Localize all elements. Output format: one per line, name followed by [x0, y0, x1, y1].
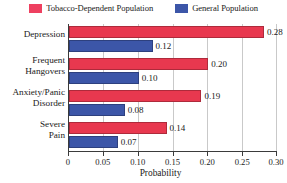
- bar-value-anxiety-general: 0.08: [125, 105, 144, 115]
- x-tick-mark-030: [276, 152, 277, 156]
- bar-hangovers-general[interactable]: [69, 72, 139, 84]
- legend-entry-tobacco-dependent: Tobacco-Dependent Population: [29, 4, 153, 13]
- chart-plot-area: 0.28 0.12 0.20 0.10 0.19 0.08 0.: [68, 24, 277, 152]
- bar-value-depression-tobacco: 0.28: [264, 27, 283, 37]
- x-tick-mark-020: [207, 152, 208, 156]
- legend-swatch-blue: [175, 4, 188, 13]
- category-label-anxiety-panic-disorder: Anxiety/Panic Disorder: [0, 87, 65, 108]
- bar-value-severe-pain-general: 0.07: [118, 137, 137, 147]
- bar-value-depression-general: 0.12: [153, 41, 172, 51]
- x-tick-label-010: 0.10: [130, 157, 145, 167]
- bar-value-anxiety-tobacco: 0.19: [201, 91, 220, 101]
- category-label-depression: Depression: [0, 29, 65, 40]
- chart-legend: Tobacco-Dependent Population General Pop…: [0, 1, 287, 15]
- x-axis-title: Probability: [140, 168, 182, 179]
- x-tick-label-0: 0: [66, 157, 70, 167]
- bar-group-depression: 0.28 0.12: [69, 24, 277, 56]
- bar-hangovers-tobacco[interactable]: [69, 58, 208, 70]
- x-tick-mark-005: [103, 152, 104, 156]
- y-axis-line: [68, 24, 69, 152]
- x-tick-mark-010: [138, 152, 139, 156]
- bar-value-severe-pain-tobacco: 0.14: [167, 123, 186, 133]
- x-tick-label-025: 0.25: [235, 157, 250, 167]
- category-label-severe-pain: Severe Pain: [0, 119, 65, 140]
- bar-severe-pain-general[interactable]: [69, 136, 118, 148]
- bar-group-severe-pain: 0.14 0.07: [69, 120, 277, 152]
- x-axis-title-wrapper: Probability: [0, 168, 287, 179]
- bar-group-frequent-hangovers: 0.20 0.10: [69, 56, 277, 88]
- x-tick-mark-015: [173, 152, 174, 156]
- bar-depression-general[interactable]: [69, 40, 153, 52]
- legend-entry-general-population: General Population: [175, 4, 258, 13]
- x-tick-label-015: 0.15: [165, 157, 180, 167]
- bar-severe-pain-tobacco[interactable]: [69, 122, 167, 134]
- bar-group-anxiety-panic-disorder: 0.19 0.08: [69, 88, 277, 120]
- x-tick-label-020: 0.20: [200, 157, 215, 167]
- bar-value-hangovers-general: 0.10: [139, 73, 158, 83]
- bar-anxiety-general[interactable]: [69, 104, 125, 116]
- bar-depression-tobacco[interactable]: [69, 26, 264, 38]
- x-tick-mark-025: [242, 152, 243, 156]
- x-tick-mark-0: [68, 152, 69, 156]
- legend-swatch-red: [29, 4, 42, 13]
- bar-value-hangovers-tobacco: 0.20: [208, 59, 227, 69]
- category-label-frequent-hangovers: Frequent Hangovers: [0, 55, 65, 76]
- x-tick-label-030: 0.30: [268, 157, 283, 167]
- x-tick-label-005: 0.05: [95, 157, 110, 167]
- legend-label-tobacco-dependent: Tobacco-Dependent Population: [46, 4, 153, 13]
- legend-label-general-population: General Population: [192, 4, 258, 13]
- bar-anxiety-tobacco[interactable]: [69, 90, 201, 102]
